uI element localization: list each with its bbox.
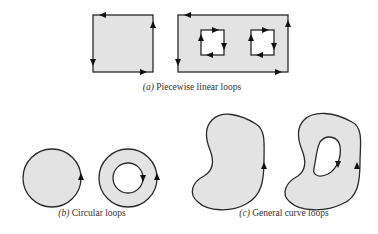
caption-b-text: Circular loops [72,208,126,218]
disk-loop [23,149,84,207]
loops-diagram [0,0,378,234]
square-hole-1 [198,27,227,58]
caption-b: (b) Circular loops [58,208,126,218]
caption-a: (a) Piecewise linear loops [143,82,241,92]
caption-c-label: (c) [239,208,250,218]
caption-c: (c) General curve loops [239,208,328,218]
caption-c-text: General curve loops [252,208,329,218]
rectangle-loop-with-holes [175,12,291,75]
caption-b-label: (b) [58,208,69,218]
square-hole-2 [248,27,277,58]
annulus-loop [99,149,160,207]
caption-a-label: (a) [143,82,154,92]
blob-loop-with-hole [285,113,361,209]
blob-loop [192,114,267,210]
square-loop [90,12,156,75]
caption-a-text: Piecewise linear loops [156,82,241,92]
